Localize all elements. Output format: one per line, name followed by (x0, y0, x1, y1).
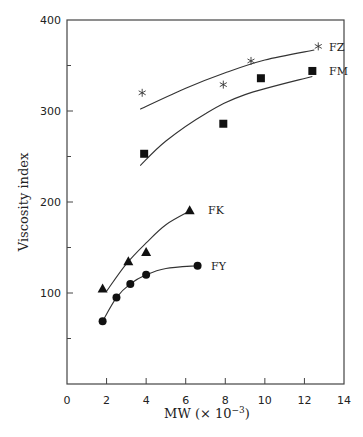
fit-curve-fz (140, 50, 314, 109)
data-point-fy (194, 262, 202, 270)
data-point-fm (257, 74, 265, 82)
x-tick-label: 0 (64, 394, 71, 407)
y-tick-label: 300 (40, 105, 61, 118)
data-points (98, 42, 322, 325)
data-point-fy (126, 280, 134, 288)
fit-curves (103, 50, 315, 321)
y-axis-title: Viscosity index (16, 152, 31, 252)
x-tick-label: 4 (143, 394, 150, 407)
data-point-fy (99, 317, 107, 325)
x-tick-label: 10 (258, 394, 272, 407)
y-tick-label: 400 (40, 14, 61, 27)
series-label-fm: FM (329, 65, 348, 78)
fit-curve-fy (103, 266, 198, 322)
data-point-fk (98, 283, 108, 292)
series-label-fy: FY (211, 260, 227, 273)
data-point-fm (308, 67, 316, 75)
data-point-fk (185, 205, 195, 214)
data-point-fy (142, 271, 150, 279)
series-label-fz: FZ (329, 41, 345, 54)
y-tick-label: 100 (40, 287, 61, 300)
series-labels: FZFMFKFY (208, 41, 348, 273)
x-tick-label: 12 (297, 394, 311, 407)
series-label-fk: FK (208, 204, 225, 217)
x-axis-title: MW (× 10−3) (164, 405, 250, 421)
plot-frame (67, 20, 344, 384)
data-point-fy (112, 294, 120, 302)
data-point-fm (219, 120, 227, 128)
chart: 02468101214100200300400 FZFMFKFY Viscosi… (0, 0, 363, 437)
data-point-fm (140, 150, 148, 158)
data-point-fz (315, 42, 322, 50)
data-point-fz (220, 81, 227, 89)
y-tick-label: 200 (40, 196, 61, 209)
data-point-fz (139, 89, 146, 97)
axes: 02468101214100200300400 (40, 14, 351, 407)
x-tick-label: 14 (337, 394, 351, 407)
data-point-fk (141, 247, 151, 256)
x-tick-label: 2 (103, 394, 110, 407)
